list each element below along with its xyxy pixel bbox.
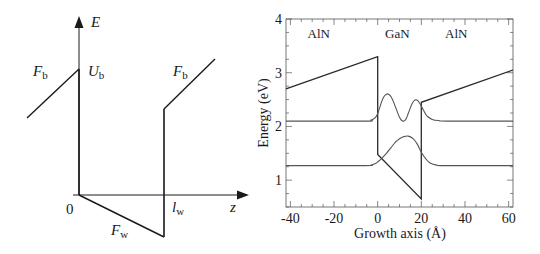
right-barrier-field-label: Fb: [172, 63, 188, 81]
x-tick-label: 40: [458, 211, 472, 226]
left-barrier-field-label: Fb: [32, 63, 48, 81]
x-tick-label: -40: [281, 211, 300, 226]
region-annotations: AlNGaNAlN: [308, 26, 469, 41]
plot-series: [286, 57, 513, 199]
x-tick-label: -20: [325, 211, 344, 226]
potential-schematic: [27, 16, 249, 237]
y-tick-label: 4: [275, 12, 282, 27]
schematic-labels: E z 0 Ub Fb Fb Fw lw: [32, 14, 236, 240]
excited-state-wavefunction: [286, 94, 513, 121]
ground-state-wavefunction: [286, 136, 513, 166]
region-label: GaN: [385, 26, 410, 41]
well-width-label: lw: [172, 199, 184, 217]
z-axis-arrow-icon: [237, 191, 249, 200]
plot-frame: [286, 19, 513, 207]
origin-label: 0: [66, 201, 74, 217]
tick-labels: -40-2002040601234: [275, 12, 516, 226]
y-axis-label: Energy (eV): [256, 78, 272, 148]
y-tick-label: 1: [275, 173, 282, 188]
y-tick-label: 3: [275, 66, 282, 81]
y-tick-label: 2: [275, 119, 282, 134]
axis-ticks: [286, 19, 513, 207]
energy-axis-label: E: [90, 14, 100, 30]
figure-canvas: E z 0 Ub Fb Fb Fw lw -40-2002040601234 A…: [0, 0, 540, 254]
region-label: AlN: [308, 26, 331, 41]
z-axis-label: z: [229, 199, 236, 215]
energy-band-chart: -40-2002040601234 AlNGaNAlN Growth axis …: [256, 12, 516, 242]
region-label: AlN: [445, 26, 468, 41]
x-tick-label: 0: [374, 211, 381, 226]
barrier-height-label: Ub: [88, 63, 105, 81]
x-axis-label: Growth axis (Å): [354, 226, 446, 242]
energy-axis-arrow-icon: [75, 16, 84, 28]
x-tick-label: 60: [502, 211, 516, 226]
right-barrier-slope: [164, 59, 215, 109]
well-field-label: Fw: [110, 222, 128, 240]
conduction-band-line: [286, 57, 513, 199]
x-tick-label: 20: [414, 211, 428, 226]
